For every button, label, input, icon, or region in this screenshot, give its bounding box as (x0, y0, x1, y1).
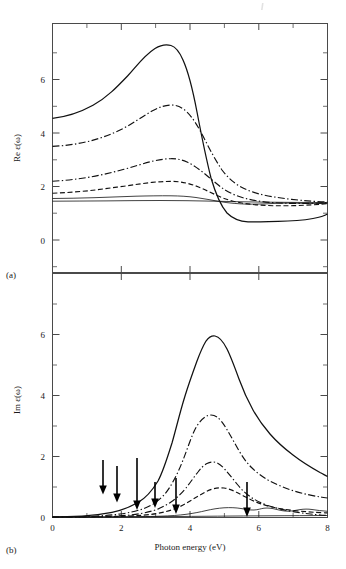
panel-b-y-major-ticks (53, 335, 328, 518)
page-artifact-speck (261, 3, 264, 10)
panel-a-curve-5 (53, 196, 328, 204)
arrow-1 (99, 460, 107, 495)
panel-a: 0 2 4 6 Re ε(ω) (a) (6, 24, 328, 281)
panel-b-xtick-0: 0 (50, 523, 55, 533)
panel-a-tag: (a) (6, 270, 16, 280)
panel-b-xtick-8: 8 (325, 523, 330, 533)
panel-a-x-ticks (53, 24, 328, 273)
arrow-5 (172, 478, 180, 514)
panel-b-xtick-4: 4 (188, 523, 193, 533)
panel-a-ytick-2: 2 (41, 182, 46, 192)
panel-a-curve-1 (53, 45, 328, 222)
panel-b-xtick-2: 2 (119, 523, 124, 533)
panel-b-curve-1 (53, 336, 328, 517)
panel-b-ytick-0: 0 (41, 513, 46, 523)
panel-b-tag: (b) (6, 545, 17, 555)
panel-b: 0 2 4 6 0 2 4 6 8 Im ε(ω) Photon energy … (6, 274, 330, 556)
panel-b-ytick-6: 6 (41, 330, 46, 340)
panel-b-frame (53, 274, 328, 518)
panel-b-curve-3 (53, 462, 328, 517)
panel-a-ytick-4: 4 (41, 129, 46, 139)
panel-a-curve-2 (53, 105, 328, 202)
panel-b-y-axis-label: Im ε(ω) (12, 386, 22, 414)
panel-a-ytick-0: 0 (41, 236, 46, 246)
panel-b-ytick-4: 4 (41, 391, 46, 401)
panel-b-x-axis-label: Photon energy (eV) (155, 542, 226, 552)
figure-dielectric-function: 0 2 4 6 Re ε(ω) (a) (0, 0, 346, 569)
panel-a-y-axis-label: Re ε(ω) (12, 134, 22, 162)
arrow-4 (151, 482, 159, 508)
panel-b-ytick-2: 2 (41, 452, 46, 462)
arrow-2 (113, 466, 121, 503)
panel-a-y-minor-ticks (53, 53, 328, 267)
panel-a-ytick-6: 6 (41, 75, 46, 85)
annotation-arrows (99, 458, 251, 517)
panel-a-y-major-ticks (53, 80, 328, 241)
panel-a-frame (53, 24, 328, 273)
arrow-3 (133, 458, 141, 510)
panel-b-curve-2 (53, 415, 328, 517)
panel-b-y-minor-ticks (53, 304, 328, 487)
panel-a-curve-6 (53, 201, 328, 203)
panel-b-xtick-6: 6 (257, 523, 262, 533)
panel-b-x-ticks (53, 274, 328, 518)
